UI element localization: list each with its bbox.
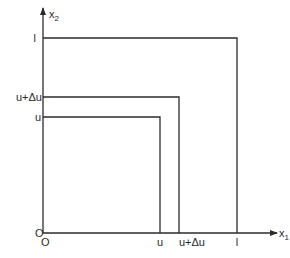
origin-label-x: O (41, 236, 50, 248)
y-tick-u-plus-delta-u: u+Δu (16, 91, 42, 103)
y-tick-l: l (34, 32, 36, 44)
y-axis-label: x2 (49, 8, 60, 23)
square-u (43, 117, 160, 233)
x-tick-u-plus-delta-u: u+Δu (179, 236, 205, 248)
square-l (43, 38, 237, 233)
x-tick-l: l (236, 236, 238, 248)
x-axis-label: x1 (279, 227, 290, 242)
diagram-canvas: x2 x1 l u+Δu u O O u u+Δu l (0, 0, 290, 258)
y-tick-u: u (35, 111, 41, 123)
x-tick-u: u (157, 236, 163, 248)
